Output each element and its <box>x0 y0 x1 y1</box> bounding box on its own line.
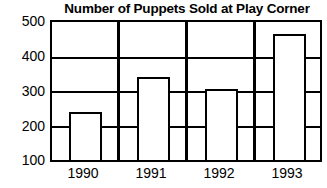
bar-chart-figure: Number of Puppets Sold at Play Corner 50… <box>0 0 327 188</box>
y-axis-tick-100: 100 <box>1 153 45 167</box>
group-separator-1992-1993 <box>253 22 256 160</box>
bar-1993 <box>273 34 306 160</box>
x-axis-tick-1993: 1993 <box>255 165 319 181</box>
y-axis-tick-200: 200 <box>1 119 45 133</box>
group-separator-1990-1991 <box>117 22 120 160</box>
bar-1990 <box>69 112 102 160</box>
x-axis-tick-1992: 1992 <box>187 165 251 181</box>
group-separator-1991-1992 <box>185 22 188 160</box>
y-axis-tick-500: 500 <box>1 14 45 28</box>
y-axis-tick-400: 400 <box>1 49 45 63</box>
chart-title: Number of Puppets Sold at Play Corner <box>52 0 322 17</box>
x-axis-tick-1990: 1990 <box>51 165 115 181</box>
x-axis-tick-1991: 1991 <box>119 165 183 181</box>
bar-1992 <box>205 89 238 160</box>
y-axis-tick-300: 300 <box>1 84 45 98</box>
bar-1991 <box>137 77 170 160</box>
plot-area <box>50 20 322 162</box>
plot-inner <box>52 22 320 160</box>
